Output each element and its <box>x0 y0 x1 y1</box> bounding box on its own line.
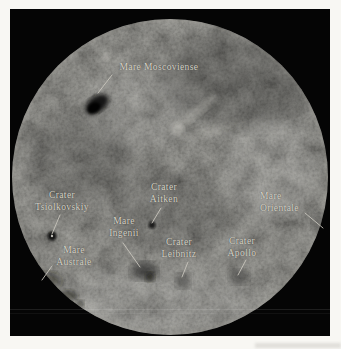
label-text: Apollo <box>228 247 257 259</box>
label-text: Mare <box>109 215 139 227</box>
crater-leibnitz-feature <box>176 274 190 288</box>
label-text: Australe <box>56 256 91 268</box>
label-text: Mare Moscoviense <box>120 61 199 73</box>
label-mare-australe: Mare Australe <box>56 244 91 268</box>
label-text: Crater <box>150 181 178 193</box>
label-mare-ingenii: Mare Ingenii <box>109 215 139 239</box>
label-crater-aitken: Crater Aitken <box>150 181 178 205</box>
book-page: { "figure": { "description": "Photograph… <box>0 0 341 349</box>
label-text: Tsiolkovskiy <box>35 201 89 213</box>
label-text: Ingenii <box>109 227 139 239</box>
label-text: Aitken <box>150 193 178 205</box>
moon-photo <box>10 9 330 336</box>
label-mare-orientale: Mare Orientale <box>260 190 299 214</box>
label-text: Crater <box>228 235 257 247</box>
photo-frame: Mare Moscoviense Crater Tsiolkovskiy Cra… <box>10 9 330 336</box>
label-text: Mare <box>260 190 299 202</box>
moon-disc <box>10 9 330 336</box>
label-crater-leibnitz: Crater Leibnitz <box>162 236 197 260</box>
label-crater-apollo: Crater Apollo <box>228 235 257 259</box>
scan-line <box>10 313 330 314</box>
crater-apollo-feature <box>229 270 249 284</box>
scan-line <box>10 309 330 310</box>
crater-aitken-feature <box>149 222 156 229</box>
label-text: Crater <box>162 236 197 248</box>
label-text: Leibnitz <box>162 248 197 260</box>
label-text: Orientale <box>260 202 299 214</box>
label-mare-moscoviense: Mare Moscoviense <box>120 61 199 73</box>
label-crater-tsiolkovskiy: Crater Tsiolkovskiy <box>35 189 89 213</box>
scan-artifact <box>255 343 341 348</box>
crater-tsiolkovskiy-feature <box>48 232 57 241</box>
label-text: Crater <box>35 189 89 201</box>
label-text: Mare <box>56 244 91 256</box>
